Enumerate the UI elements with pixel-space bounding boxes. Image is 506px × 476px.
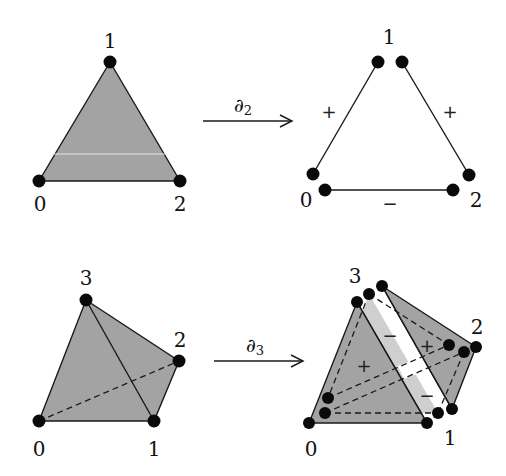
vertex-dot: [319, 407, 331, 419]
boundary-arrow-2: ∂2: [203, 94, 292, 127]
vertex-1-dot: [148, 415, 161, 428]
vertex-dot: [432, 407, 444, 419]
sign-edge-0-2: −: [382, 193, 397, 214]
vertex-dot: [363, 288, 375, 300]
edge-1-2: [402, 62, 469, 175]
sign-edge-1-2: +: [442, 101, 457, 122]
vertex-2-label: 2: [174, 192, 187, 216]
vertex-2-label: 2: [174, 328, 187, 352]
vertex-1-label: 1: [383, 25, 396, 49]
vertex-dot: [463, 169, 476, 182]
vertex-dot: [303, 417, 315, 429]
vertex-dot: [351, 296, 363, 308]
three-simplex-boundary: + − + − 3 2 0 1: [303, 264, 483, 461]
triangle-face: [39, 62, 180, 181]
three-simplex: 3 2 0 1: [33, 266, 187, 461]
two-simplex-boundary: + + − 1 0 2: [300, 25, 483, 214]
vertex-2-dot: [174, 175, 187, 188]
vertex-0-label: 0: [33, 437, 46, 461]
vertex-0-dot: [33, 175, 46, 188]
boundary-operator-diagram: 1 0 2 ∂2 + + − 1 0 2 3 2 0 1: [0, 0, 506, 476]
vertex-dot: [376, 280, 388, 292]
sign-middle-face-lower: −: [419, 385, 434, 406]
sign-edge-0-1: +: [321, 101, 336, 122]
vertex-3-dot: [80, 294, 93, 307]
operator-label: ∂2: [234, 94, 252, 118]
boundary-arrow-3: ∂3: [214, 334, 303, 367]
vertex-dot: [396, 56, 409, 69]
vertex-dot: [447, 184, 460, 197]
vertex-0-label: 0: [300, 188, 313, 212]
vertex-0-dot: [33, 415, 46, 428]
vertex-1-dot: [104, 56, 117, 69]
vertex-2-label: 2: [471, 315, 484, 339]
vertex-1-label: 1: [148, 437, 161, 461]
two-simplex: 1 0 2: [33, 29, 187, 216]
vertex-2-label: 2: [470, 188, 483, 212]
vertex-dot: [421, 417, 433, 429]
vertex-1-label: 1: [104, 29, 117, 53]
vertex-dot: [307, 168, 320, 181]
vertex-dot: [319, 184, 332, 197]
sign-middle-face-upper: −: [382, 325, 397, 346]
vertex-dot: [372, 56, 385, 69]
vertex-3-label: 3: [349, 264, 362, 288]
vertex-3-label: 3: [80, 266, 93, 290]
tetrahedron-outline: [39, 300, 179, 421]
vertex-dot: [443, 339, 455, 351]
vertex-0-label: 0: [305, 437, 318, 461]
sign-back-face: +: [419, 335, 434, 356]
vertex-0-label: 0: [34, 192, 47, 216]
operator-label: ∂3: [246, 334, 264, 358]
vertex-1-label: 1: [444, 426, 457, 450]
vertex-dot: [470, 341, 482, 353]
sign-front-face: +: [356, 355, 371, 376]
vertex-dot: [322, 392, 334, 404]
vertex-2-dot: [173, 355, 186, 368]
vertex-dot: [446, 403, 458, 415]
vertex-dot: [458, 346, 470, 358]
